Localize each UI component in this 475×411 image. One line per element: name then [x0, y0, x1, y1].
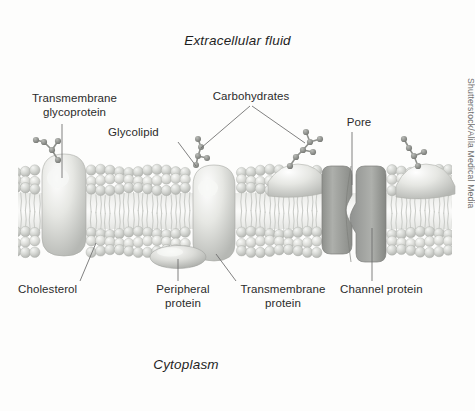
cell-membrane-diagram: Extracellular fluid Cytoplasm Transmembr…	[0, 0, 475, 411]
leader-glycolipid	[178, 142, 196, 166]
image-credit: Shutterstock/Alila Medical Media	[466, 78, 475, 238]
transmembrane-protein-body	[193, 165, 235, 261]
carbohydrate-chain-glycoprotein	[33, 137, 61, 163]
figure-canvas: Extracellular fluid Cytoplasm Transmembr…	[0, 0, 475, 411]
label-transmembrane-glycoprotein: Transmembrane glycoprotein	[8, 92, 141, 119]
region-label-extracellular-fluid: Extracellular fluid	[0, 34, 475, 48]
channel-protein-body	[322, 166, 386, 262]
carbohydrate-chain-center	[287, 129, 323, 169]
transmembrane-glycoprotein-body	[42, 154, 86, 256]
label-peripheral-protein: Peripheral protein	[140, 283, 226, 310]
membrane-illustration	[0, 0, 475, 411]
label-transmembrane-protein: Transmembrane protein	[232, 283, 334, 310]
leader-carbohydrates-left	[201, 106, 250, 148]
label-carbohydrates: Carbohydrates	[205, 90, 297, 104]
label-pore: Pore	[338, 116, 380, 130]
region-label-cytoplasm: Cytoplasm	[0, 358, 372, 372]
label-channel-protein: Channel protein	[340, 283, 436, 297]
label-glycolipid: Glycolipid	[108, 126, 180, 140]
label-cholesterol: Cholesterol	[18, 283, 100, 297]
leader-carbohydrates-right	[252, 106, 305, 143]
glycolipid-carbohydrate-chain	[193, 136, 210, 168]
carbohydrate-chains	[33, 129, 427, 169]
